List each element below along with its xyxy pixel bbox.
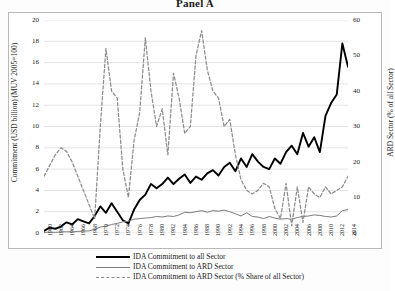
right-tick-20: 20 (353, 159, 379, 166)
x-tick-1966: 1966 (80, 224, 86, 236)
right-axis-title: ARD Sector (% of all Sector) (386, 23, 395, 203)
x-tick-1984: 1984 (182, 224, 188, 236)
gridlines (44, 20, 348, 233)
x-tick-2006: 2006 (306, 224, 312, 236)
x-tick-1990: 1990 (215, 224, 221, 236)
x-tick-1998: 1998 (261, 224, 267, 236)
legend-label: IDA Commitment to ARD Sector (133, 262, 233, 272)
series-solid-thick-black (44, 43, 348, 230)
x-tick-2008: 2008 (317, 224, 323, 236)
x-tick-2014: 2014 (351, 224, 357, 236)
x-tick-1970: 1970 (103, 224, 109, 236)
left-tick-14: 14 (13, 80, 39, 87)
left-tick-4: 4 (13, 187, 39, 194)
x-tick-2002: 2002 (283, 224, 289, 236)
left-axis-title: Commitment (USD billion) (MUV 2005=100) (10, 23, 19, 203)
legend-item: IDA Commitment to ARD Sector (% Share of… (0, 272, 390, 282)
left-tick-12: 12 (13, 102, 39, 109)
legend-item: IDA Commitment to ARD Sector (0, 262, 390, 272)
data-series-group (44, 31, 348, 233)
legend-key-solid-thin-gray (96, 264, 130, 271)
x-tick-2000: 2000 (272, 224, 278, 236)
legend-label: IDA Commitment to all Sector (133, 252, 226, 262)
x-tick-1992: 1992 (227, 224, 233, 236)
legend-key-dashed-gray (96, 274, 130, 281)
left-tick-8: 8 (13, 144, 39, 151)
series-canvas (44, 20, 348, 233)
x-tick-2004: 2004 (294, 224, 300, 236)
x-tick-1982: 1982 (170, 224, 176, 236)
right-tick-30: 30 (353, 123, 379, 130)
left-tick-16: 16 (13, 59, 39, 66)
x-tick-1968: 1968 (92, 224, 98, 236)
x-tick-2010: 2010 (328, 224, 334, 236)
x-tick-1974: 1974 (125, 224, 131, 236)
left-tick-10: 10 (13, 123, 39, 130)
series-dashed-gray (44, 31, 348, 226)
left-tick-6: 6 (13, 166, 39, 173)
left-tick-20: 20 (13, 17, 39, 24)
left-tick-0: 0 (13, 230, 39, 237)
left-tick-18: 18 (13, 38, 39, 45)
plot-area (44, 20, 348, 233)
x-tick-1986: 1986 (193, 224, 199, 236)
x-tick-1978: 1978 (148, 224, 154, 236)
x-tick-1972: 1972 (114, 224, 120, 236)
x-tick-1962: 1962 (58, 224, 64, 236)
x-tick-1960: 1960 (47, 224, 53, 236)
x-tick-1996: 1996 (249, 224, 255, 236)
x-tick-1980: 1980 (159, 224, 165, 236)
legend-label: IDA Commitment to ARD Sector (% Share of… (133, 272, 304, 282)
x-tick-2012: 2012 (339, 224, 345, 236)
right-tick-10: 10 (353, 194, 379, 201)
left-tick-2: 2 (13, 208, 39, 215)
chart-legend: IDA Commitment to all SectorIDA Commitme… (0, 252, 390, 282)
legend-item: IDA Commitment to all Sector (0, 252, 390, 262)
right-tick-40: 40 (353, 88, 379, 95)
right-tick-60: 60 (353, 17, 379, 24)
x-tick-1994: 1994 (238, 224, 244, 236)
x-tick-1976: 1976 (137, 224, 143, 236)
legend-key-solid-thick-black (96, 254, 130, 261)
x-tick-1964: 1964 (69, 224, 75, 236)
panel-title: Panel A (0, 0, 390, 9)
x-tick-1988: 1988 (204, 224, 210, 236)
right-tick-50: 50 (353, 52, 379, 59)
